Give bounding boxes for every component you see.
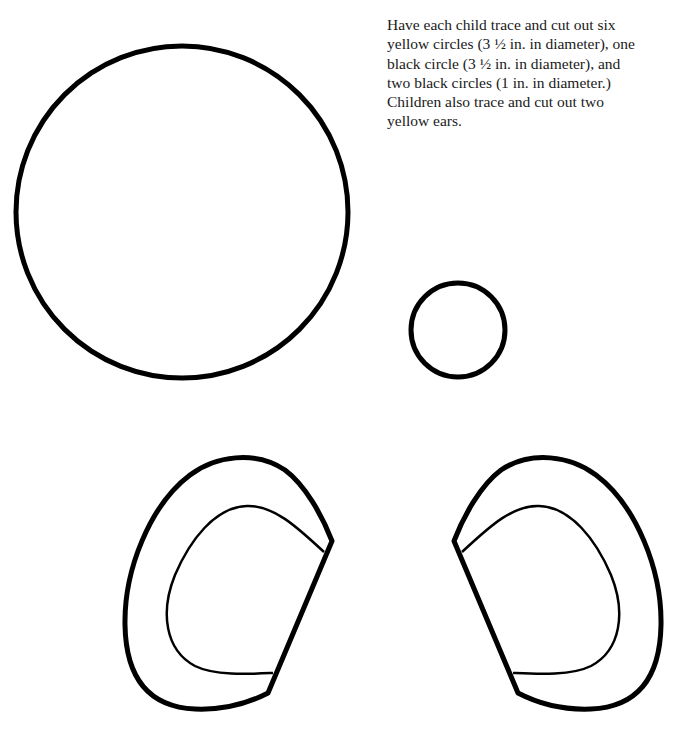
left-ear-inner-line: [167, 506, 324, 674]
left-ear-template: [125, 458, 332, 710]
right-ear-inner-line: [462, 506, 619, 674]
small-circle-template: [411, 283, 505, 377]
right-ear-outline: [454, 458, 661, 710]
right-ear-template: [454, 458, 661, 710]
left-ear-outline: [125, 458, 332, 710]
template-artwork: [0, 0, 697, 747]
large-circle-template: [16, 46, 348, 378]
